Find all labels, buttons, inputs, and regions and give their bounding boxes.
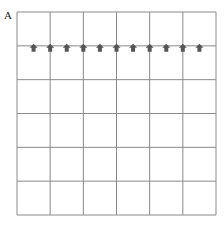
up-arrow-icon (146, 44, 154, 52)
grid-lines (17, 12, 216, 215)
arrow-row (30, 44, 204, 52)
up-arrow-icon (129, 44, 137, 52)
up-arrow-icon (96, 44, 104, 52)
up-arrow-icon (195, 44, 203, 52)
grid-diagram (0, 0, 224, 227)
up-arrow-icon (113, 44, 121, 52)
up-arrow-icon (179, 44, 187, 52)
up-arrow-icon (162, 44, 170, 52)
up-arrow-icon (46, 44, 54, 52)
up-arrow-icon (79, 44, 87, 52)
up-arrow-icon (30, 44, 38, 52)
up-arrow-icon (63, 44, 71, 52)
